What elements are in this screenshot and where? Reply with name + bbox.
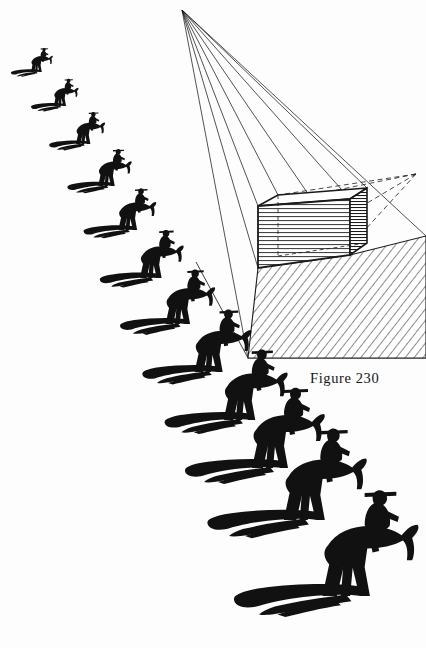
- rider-figure: [31, 79, 79, 112]
- rider-figure: [207, 429, 366, 539]
- rider-figure: [11, 48, 53, 77]
- rider-figure: [100, 230, 184, 288]
- rider-figure: [67, 149, 131, 193]
- rider-figure: [84, 188, 157, 238]
- figure-plate: [0, 0, 426, 648]
- figure-caption: Figure 230: [310, 370, 379, 387]
- figure-drawing: [0, 0, 426, 648]
- rider-figure: [49, 112, 105, 150]
- rider-figure: [120, 269, 215, 334]
- rider-figure: [234, 490, 419, 617]
